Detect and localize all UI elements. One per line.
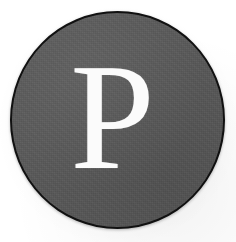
- circular-emblem-disc: P: [10, 11, 225, 229]
- emblem-letter-p: P: [70, 41, 155, 193]
- emblem-canvas: P: [0, 0, 236, 242]
